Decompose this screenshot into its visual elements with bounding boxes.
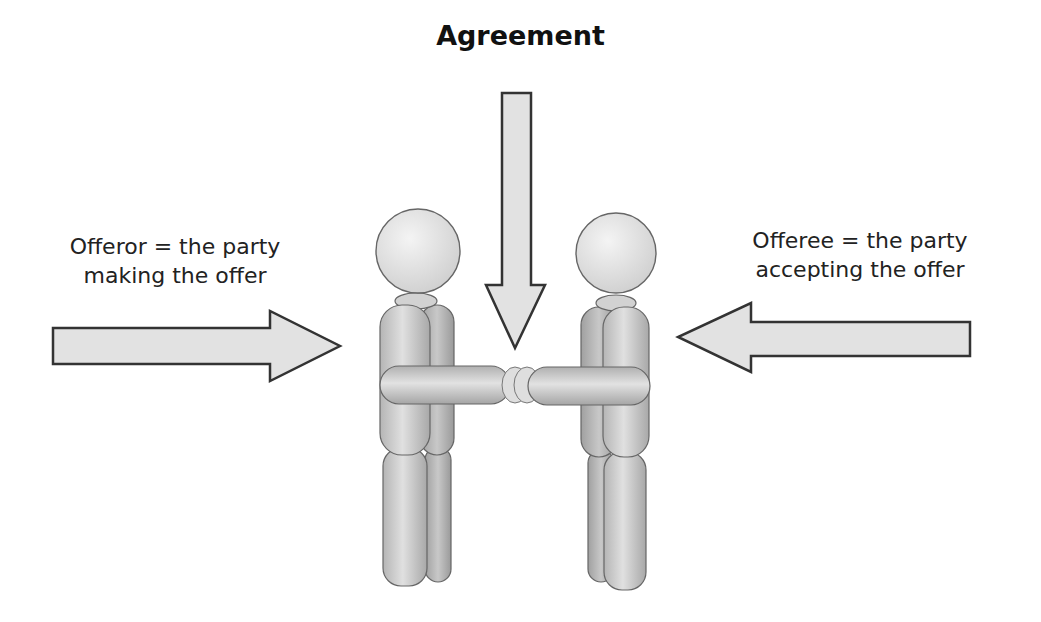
offeror-arrow	[53, 311, 340, 381]
offeror-figure	[376, 209, 510, 586]
offeree-arrow	[678, 303, 970, 372]
agreement-arrow	[486, 93, 545, 348]
offeree-figure	[528, 213, 656, 590]
diagram-canvas	[0, 0, 1041, 622]
